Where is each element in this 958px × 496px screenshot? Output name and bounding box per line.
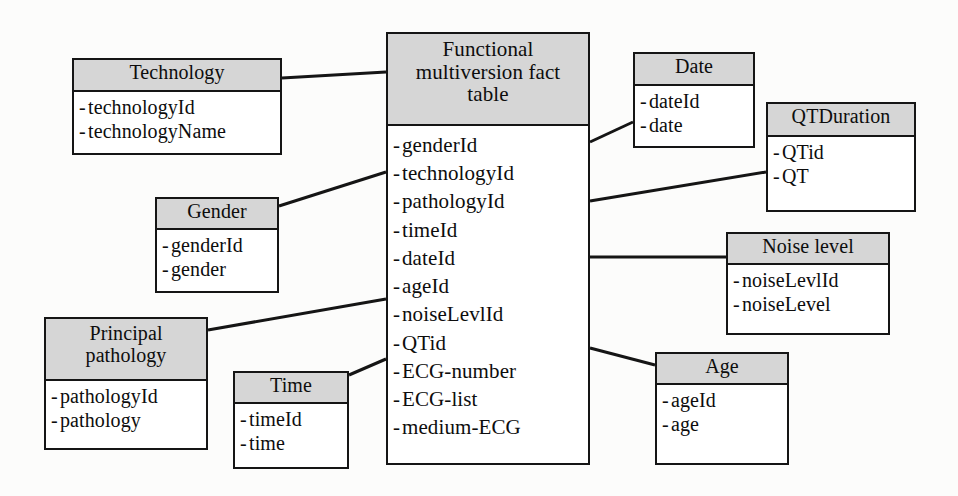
attribute-row: -noiseLevlId [395, 300, 586, 328]
attribute-bullet: - [640, 113, 649, 137]
entity-time[interactable]: Time -timeId -time [233, 371, 349, 469]
entity-header-line: Age [660, 356, 784, 378]
entity-header-time: Time [235, 373, 347, 404]
attribute-bullet: - [662, 388, 671, 412]
attribute-row: -ECG-list [395, 385, 586, 413]
attribute-row: -timeId [395, 216, 586, 244]
attribute-label: noiseLevel [742, 293, 831, 315]
attribute-row: -medium-ECG [395, 413, 586, 441]
entity-fact-table[interactable]: Functional multiversion fact table -gend… [386, 32, 590, 465]
attribute-bullet: - [51, 408, 60, 432]
entity-header-line: Time [238, 375, 344, 397]
attribute-bullet: - [773, 164, 782, 188]
attribute-label: ageId [402, 274, 449, 298]
attribute-row: -timeId [242, 407, 345, 431]
attribute-bullet: - [393, 244, 402, 272]
attribute-row: -noiseLevel [735, 292, 886, 316]
attribute-row: -QT [775, 164, 912, 188]
attribute-label: genderId [171, 234, 243, 256]
connector-age-to-fact [590, 348, 655, 365]
attribute-row: -technologyId [395, 159, 586, 187]
attribute-label: technologyId [402, 161, 514, 185]
attribute-label: QTid [782, 141, 824, 163]
attribute-row: -QTid [775, 140, 912, 164]
attribute-label: medium-ECG [402, 415, 521, 439]
attribute-bullet: - [240, 431, 249, 455]
entity-body-fact-table: -genderId -technologyId -pathologyId -ti… [388, 126, 588, 444]
attribute-label: timeId [402, 218, 457, 242]
entity-header-line: Technology [77, 62, 277, 84]
attribute-row: -dateId [642, 89, 751, 113]
entity-qtduration[interactable]: QTDuration -QTid -QT [766, 102, 916, 212]
attribute-row: -genderId [395, 131, 586, 159]
attribute-bullet: - [393, 357, 402, 385]
attribute-bullet: - [393, 329, 402, 357]
attribute-row: -age [664, 412, 785, 436]
attribute-bullet: - [240, 407, 249, 431]
attribute-label: age [671, 413, 699, 435]
connector-gender-to-fact [279, 172, 386, 206]
attribute-label: pathologyId [402, 189, 505, 213]
entity-body-principal-pathology: -pathologyId -pathology [46, 381, 206, 435]
entity-body-time: -timeId -time [235, 404, 347, 458]
attribute-label: gender [171, 258, 226, 280]
entity-header-line: Date [638, 56, 750, 78]
attribute-label: date [649, 114, 683, 136]
entity-header-line: Principal [49, 323, 203, 345]
attribute-label: technologyId [88, 96, 195, 118]
entity-technology[interactable]: Technology -technologyId -technologyName [72, 58, 282, 155]
attribute-row: -noiseLevlId [735, 268, 886, 292]
entity-body-date: -dateId -date [635, 86, 753, 140]
attribute-row: -date [642, 113, 751, 137]
entity-body-qtduration: -QTid -QT [768, 137, 914, 191]
entity-header-fact-table: Functional multiversion fact table [388, 34, 588, 126]
attribute-label: ageId [671, 389, 716, 411]
entity-body-technology: -technologyId -technologyName [74, 92, 280, 146]
entity-header-date: Date [635, 54, 753, 86]
entity-body-noise-level: -noiseLevlId -noiseLevel [728, 265, 888, 319]
star-schema-diagram: Functional multiversion fact table -gend… [0, 0, 958, 496]
attribute-row: -pathologyId [53, 384, 204, 408]
connector-date-to-fact [590, 122, 633, 142]
attribute-row: -gender [164, 257, 275, 281]
attribute-row: -ageId [664, 388, 785, 412]
entity-principal-pathology[interactable]: Principal pathology -pathologyId -pathol… [44, 317, 208, 450]
attribute-label: technologyName [88, 120, 226, 142]
attribute-label: noiseLevlId [742, 269, 839, 291]
entity-age[interactable]: Age -ageId -age [655, 352, 789, 465]
entity-header-age: Age [657, 354, 787, 385]
attribute-label: QTid [402, 331, 446, 355]
attribute-label: QT [782, 165, 809, 187]
entity-header-line: Noise level [731, 236, 885, 258]
connector-technology-to-fact [282, 72, 386, 78]
attribute-row: -pathology [53, 408, 204, 432]
attribute-row: -genderId [164, 233, 275, 257]
entity-header-gender: Gender [157, 199, 277, 230]
attribute-row: -dateId [395, 244, 586, 272]
attribute-bullet: - [393, 413, 402, 441]
attribute-bullet: - [773, 140, 782, 164]
attribute-row: -technologyName [81, 119, 278, 143]
connector-qtduration-to-fact [590, 172, 766, 201]
attribute-label: pathologyId [60, 385, 158, 407]
attribute-label: genderId [402, 133, 477, 157]
entity-body-age: -ageId -age [657, 385, 787, 439]
attribute-bullet: - [733, 292, 742, 316]
attribute-row: -ECG-number [395, 357, 586, 385]
entity-header-line: QTDuration [771, 106, 911, 128]
attribute-label: dateId [402, 246, 455, 270]
attribute-bullet: - [79, 95, 88, 119]
entity-noise-level[interactable]: Noise level -noiseLevlId -noiseLevel [726, 232, 890, 335]
attribute-row: -technologyId [81, 95, 278, 119]
attribute-row: -ageId [395, 272, 586, 300]
attribute-bullet: - [393, 131, 402, 159]
attribute-row: -QTid [395, 329, 586, 357]
attribute-bullet: - [393, 187, 402, 215]
entity-gender[interactable]: Gender -genderId -gender [155, 197, 279, 293]
entity-header-line: Functional [391, 38, 585, 61]
attribute-bullet: - [733, 268, 742, 292]
entity-date[interactable]: Date -dateId -date [633, 52, 755, 148]
attribute-bullet: - [640, 89, 649, 113]
attribute-row: -pathologyId [395, 187, 586, 215]
attribute-bullet: - [393, 159, 402, 187]
